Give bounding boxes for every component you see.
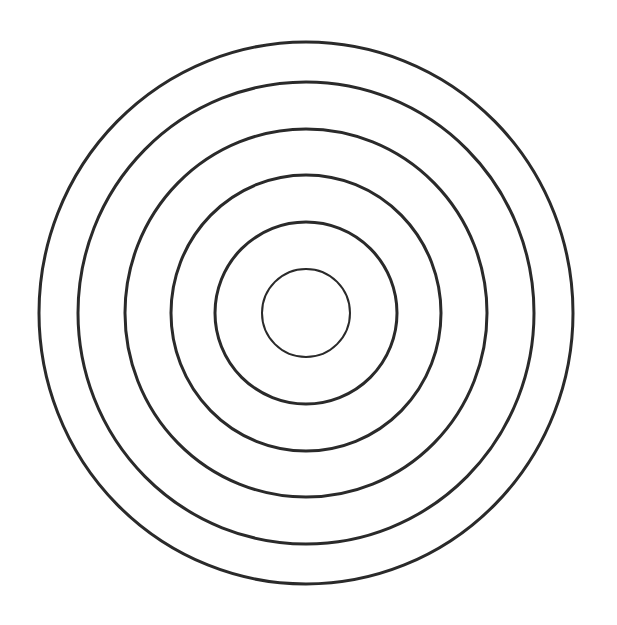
rings-group: [39, 42, 573, 584]
ring-2: [78, 82, 534, 544]
concentric-circles-figure: [0, 0, 617, 625]
ring-5: [215, 222, 397, 404]
ring-6: [262, 269, 350, 357]
ring-4: [171, 175, 441, 451]
ring-1: [39, 42, 573, 584]
ring-3: [125, 129, 487, 497]
